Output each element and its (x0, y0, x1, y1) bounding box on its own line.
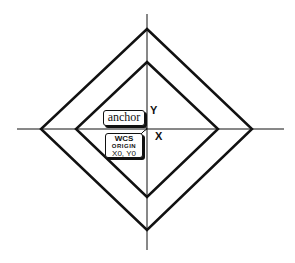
x-axis-label: X (155, 130, 162, 142)
diagram-canvas: Y X anchor WCS ORIGIN X0, Y0 (0, 0, 295, 263)
diagram-graphics (0, 0, 295, 263)
y-axis-label: Y (150, 104, 157, 116)
anchor-callout: anchor (103, 110, 145, 126)
wcs-label: WCS (106, 135, 142, 143)
origin-coords-label: X0, Y0 (106, 149, 142, 158)
wcs-origin-callout: WCS ORIGIN X0, Y0 (105, 133, 143, 158)
